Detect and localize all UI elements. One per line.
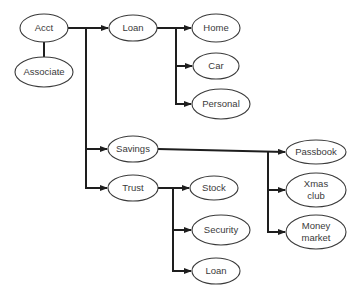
- node-label-xmas-line1: Xmas: [304, 178, 329, 189]
- edge-savings-passbook: [158, 149, 285, 152]
- node-savings: Savings: [108, 136, 158, 162]
- account-hierarchy-diagram: Acct Associate Loan Home Car Personal Sa…: [0, 0, 364, 300]
- node-stock: Stock: [190, 176, 238, 200]
- node-label-xmas-line2: club: [307, 190, 324, 201]
- node-label-trust: Trust: [122, 182, 144, 193]
- node-label-security: Security: [204, 224, 239, 235]
- node-acct: Acct: [20, 14, 68, 42]
- node-label-trust-loan: Loan: [205, 265, 226, 276]
- node-trust-loan: Loan: [192, 258, 240, 284]
- node-label-loan: Loan: [122, 22, 143, 33]
- node-loan: Loan: [109, 15, 157, 41]
- node-passbook: Passbook: [286, 140, 346, 164]
- node-label-acct: Acct: [35, 22, 54, 33]
- edge-savings-money-market: [268, 151, 285, 232]
- node-label-home: Home: [203, 22, 228, 33]
- node-car: Car: [193, 53, 239, 79]
- node-label-associate: Associate: [23, 66, 64, 77]
- node-label-savings: Savings: [116, 143, 150, 154]
- node-label-personal: Personal: [202, 98, 240, 109]
- node-trust: Trust: [108, 175, 158, 201]
- edge-acct-trust: [86, 28, 107, 188]
- node-label-money-line1: Money: [302, 220, 331, 231]
- node-label-passbook: Passbook: [295, 146, 337, 157]
- node-xmas-club: Xmas club: [286, 173, 346, 207]
- node-label-stock: Stock: [202, 182, 226, 193]
- node-home: Home: [192, 14, 240, 42]
- node-associate: Associate: [15, 57, 73, 87]
- node-security: Security: [192, 215, 250, 245]
- node-money-market: Money market: [286, 215, 346, 249]
- node-label-car: Car: [208, 60, 223, 71]
- node-personal: Personal: [192, 89, 250, 119]
- node-label-money-line2: market: [301, 232, 330, 243]
